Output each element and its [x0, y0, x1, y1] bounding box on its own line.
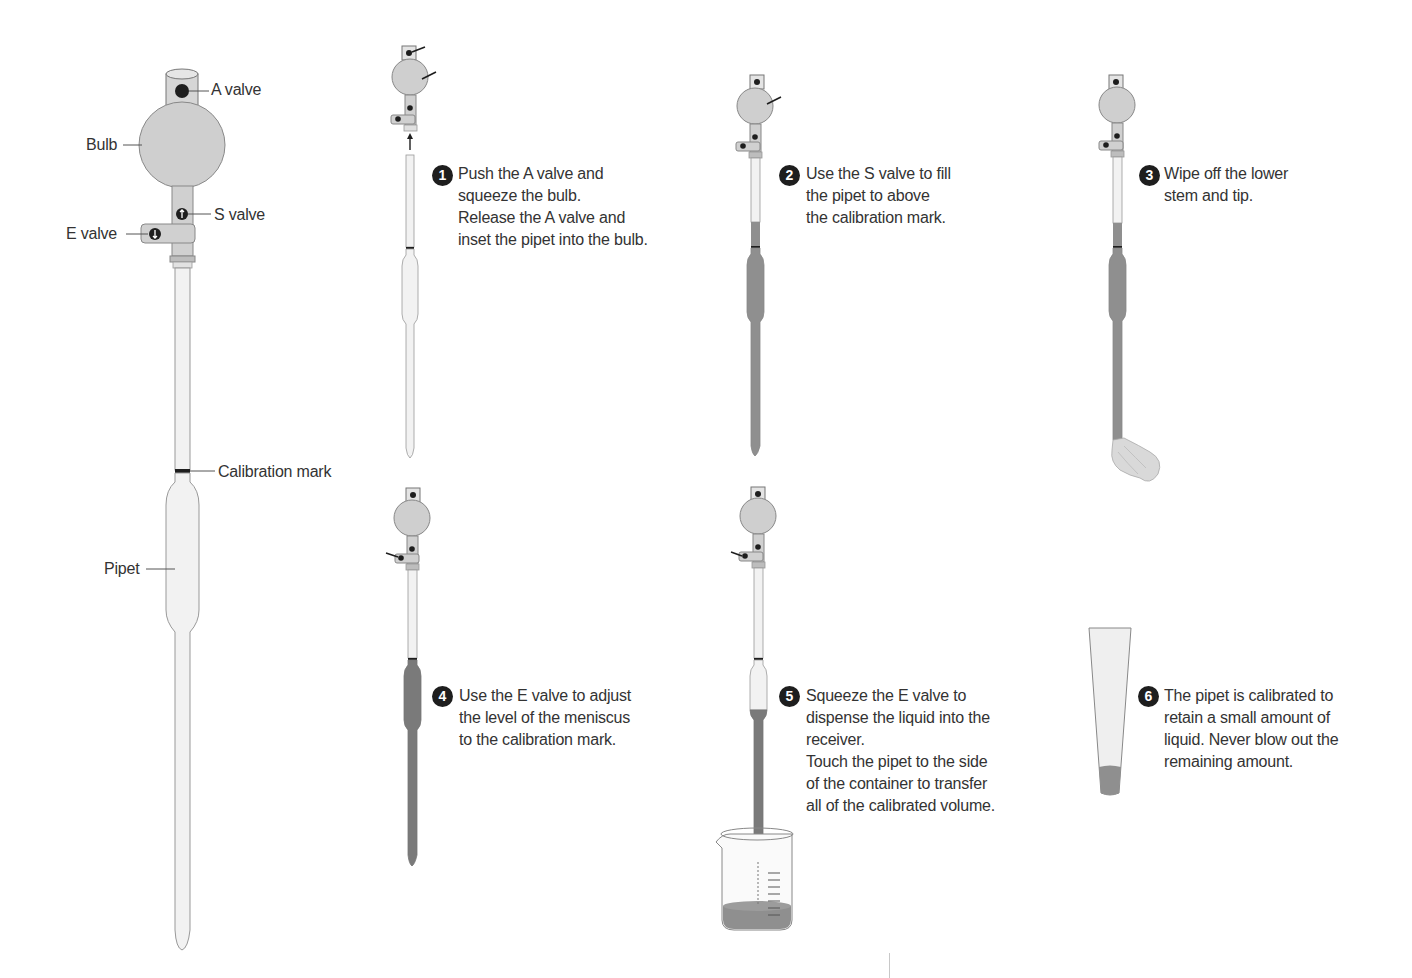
- label-bulb: Bulb: [86, 136, 117, 154]
- step-4-text: Use the E valve to adjust the level of t…: [459, 685, 631, 751]
- label-e-valve: E valve: [66, 225, 117, 243]
- label-a-valve: A valve: [211, 81, 261, 99]
- step-number-badge: 4: [432, 686, 453, 707]
- label-calibration-mark: Calibration mark: [218, 463, 331, 481]
- divider-line: [889, 953, 890, 978]
- step-number-badge: 3: [1139, 165, 1160, 186]
- step-number-badge: 2: [779, 165, 800, 186]
- main-pipet-diagram: [0, 0, 1412, 978]
- beaker-icon: [716, 828, 793, 930]
- step-number-badge: 1: [432, 165, 453, 186]
- step-2-text: Use the S valve to fill the pipet to abo…: [806, 163, 951, 229]
- step-number-badge: 6: [1138, 686, 1159, 707]
- label-s-valve: S valve: [214, 206, 265, 224]
- step6-pipet-tip-closeup: [0, 0, 1, 1]
- step-6-text: The pipet is calibrated to retain a smal…: [1164, 685, 1338, 773]
- main-bulb: [139, 102, 225, 188]
- step-number-badge: 5: [779, 686, 800, 707]
- step-1-text: Push the A valve and squeeze the bulb. R…: [458, 163, 648, 251]
- step-3-text: Wipe off the lower stem and tip.: [1164, 163, 1288, 207]
- label-pipet: Pipet: [104, 560, 139, 578]
- main-a-valve-tube: [166, 69, 198, 106]
- step-5-text: Squeeze the E valve to dispense the liqu…: [806, 685, 995, 817]
- main-calibration-mark: [175, 469, 190, 473]
